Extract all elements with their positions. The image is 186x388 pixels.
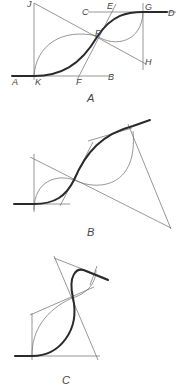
tangent-mid-c <box>30 287 94 315</box>
reverse-curve-c <box>15 270 108 356</box>
label-f: F <box>76 77 82 87</box>
label-k: K <box>35 77 42 87</box>
caption-b: B <box>87 226 94 238</box>
label-j: J <box>26 0 32 9</box>
panel-c: C <box>14 256 108 386</box>
caption-c: C <box>62 374 70 386</box>
diagonal-b <box>30 157 171 228</box>
reverse-curve-diagram: J C E G D P H A K F B A B <box>0 0 186 388</box>
label-p: P <box>95 28 101 38</box>
label-h: H <box>145 57 152 67</box>
label-c: C <box>82 7 89 17</box>
label-a: A <box>11 77 18 87</box>
arc-left-c <box>32 298 72 355</box>
caption-a: A <box>86 92 94 104</box>
reverse-curve-b <box>14 120 150 204</box>
label-d: D <box>168 8 175 18</box>
label-e: E <box>107 1 114 11</box>
arc-left-b <box>34 178 74 210</box>
panel-a: J C E G D P H A K F B A <box>11 0 176 104</box>
right-line-b <box>128 124 171 229</box>
label-b: B <box>108 72 114 82</box>
panel-b: B <box>14 120 171 238</box>
label-g: G <box>145 2 152 12</box>
